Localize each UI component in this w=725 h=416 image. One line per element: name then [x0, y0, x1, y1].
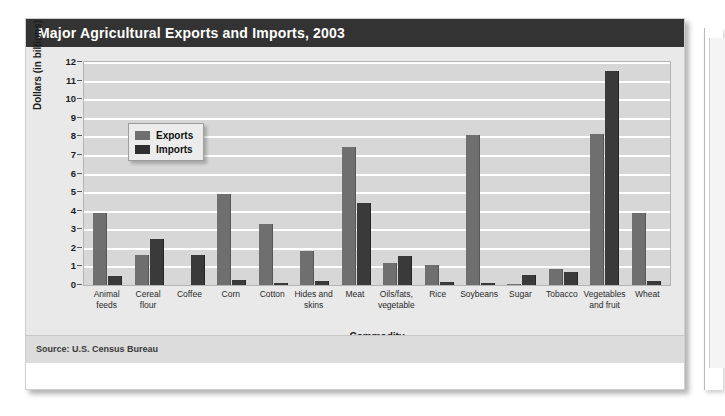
bar-group [625, 62, 666, 285]
x-axis-tick-label: Oils/fats,vegetable [376, 289, 417, 329]
x-axis-tick-label: Corn [210, 289, 251, 329]
bar-imports [647, 281, 661, 285]
y-axis-tick-label: 5 [71, 186, 76, 197]
y-axis-tick-mark [77, 135, 82, 136]
y-axis-tick-mark [77, 228, 82, 229]
figure-title-bar: Major Agricultural Exports and Imports, … [26, 19, 684, 47]
bar-group [211, 62, 252, 285]
y-axis-tick-label: 6 [71, 167, 76, 178]
legend-item-imports: Imports [135, 142, 193, 156]
y-axis-tick-label: 11 [66, 74, 76, 85]
bar-exports [466, 135, 480, 285]
bar-group [377, 62, 418, 285]
y-axis-tick-label: 8 [71, 130, 76, 141]
bar-imports [150, 239, 164, 285]
y-axis-tick-label: 1 [71, 260, 76, 271]
bar-imports [605, 71, 619, 285]
bar-exports [93, 213, 107, 285]
y-axis-tick-mark [77, 61, 82, 62]
y-axis-tick-label: 12 [65, 56, 76, 67]
bar-imports [191, 255, 205, 285]
figure-card: Major Agricultural Exports and Imports, … [25, 18, 685, 390]
y-axis-tick-mark [77, 98, 82, 99]
bar-exports [135, 255, 149, 285]
bar-exports [425, 265, 439, 285]
x-axis-tick-label: Tobacco [541, 289, 582, 329]
y-axis-tick-label: 7 [71, 148, 76, 159]
bar-imports [357, 203, 371, 285]
bar-imports [481, 283, 495, 285]
y-axis-tick-label: 10 [65, 93, 76, 104]
x-axis-tick-label: Hides andskins [293, 289, 334, 329]
bar-group [128, 62, 169, 285]
y-axis-tick-mark [77, 117, 82, 118]
y-axis-tick-mark [77, 210, 82, 211]
bar-group [87, 62, 128, 285]
x-axis-tick-label: Cotton [252, 289, 293, 329]
y-axis-tick-mark [77, 191, 82, 192]
bar-exports [217, 194, 231, 285]
x-axis-tick-label: Sugar [500, 289, 541, 329]
bar-exports [590, 134, 604, 285]
y-axis-tick-mark [77, 173, 82, 174]
bar-group [460, 62, 501, 285]
bar-exports [383, 263, 397, 285]
bar-imports [274, 283, 288, 285]
y-axis-tick-mark [77, 265, 82, 266]
bar-imports [398, 256, 412, 285]
y-axis-tick-label: 9 [71, 111, 76, 122]
adjacent-panel-edge [704, 28, 723, 390]
legend-label-exports: Exports [156, 130, 193, 141]
exports-swatch-icon [135, 131, 150, 140]
bar-imports [440, 282, 454, 285]
bar-exports [549, 269, 563, 285]
chart-legend: Exports Imports [128, 123, 204, 161]
bar-exports [259, 224, 273, 285]
bar-exports [507, 284, 521, 285]
y-axis-tick-label: 0 [71, 279, 76, 290]
y-axis-tick-label: 2 [71, 241, 76, 252]
source-bar: Source: U.S. Census Bureau [26, 335, 684, 363]
adjacent-panel-inner [709, 38, 725, 368]
bar-imports [315, 281, 329, 285]
y-axis-tick-label: 3 [71, 223, 76, 234]
y-axis-tick-mark [77, 80, 82, 81]
bar-group [336, 62, 377, 285]
plot-area [83, 61, 671, 286]
x-axis-tick-label: Soybeans [458, 289, 499, 329]
x-axis-tick-label: Animalfeeds [86, 289, 127, 329]
bar-group [584, 62, 625, 285]
bar-group [253, 62, 294, 285]
x-axis-tick-label: Rice [417, 289, 458, 329]
bar-series-container [84, 62, 670, 285]
legend-item-exports: Exports [135, 128, 193, 142]
bar-imports [522, 275, 536, 285]
bar-imports [564, 272, 578, 285]
x-axis-tick-label: Vegetablesand fruit [583, 289, 627, 329]
y-axis-tick-mark [77, 154, 82, 155]
x-axis-tick-label: Coffee [169, 289, 210, 329]
y-axis-tick-mark [77, 247, 82, 248]
plot-wrapper: 0123456789101112 Exports Imports [83, 61, 671, 286]
source-note: Source: U.S. Census Bureau [36, 344, 158, 354]
imports-swatch-icon [135, 145, 150, 154]
bar-group [543, 62, 584, 285]
bar-exports [300, 251, 314, 285]
y-axis-tick-mark [77, 284, 82, 285]
page-title: Major Agricultural Exports and Imports, … [38, 25, 345, 41]
bar-group [418, 62, 459, 285]
x-axis-tick-label: Wheat [627, 289, 668, 329]
bar-exports [632, 213, 646, 285]
bar-group [170, 62, 211, 285]
x-axis-tick-labels: AnimalfeedsCerealflourCoffeeCornCottonHi… [83, 289, 671, 329]
legend-label-imports: Imports [156, 144, 193, 155]
bar-imports [232, 280, 246, 285]
x-axis-tick-label: Cerealflour [127, 289, 168, 329]
bar-group [501, 62, 542, 285]
y-axis-tick-label: 4 [71, 204, 76, 215]
bar-imports [108, 276, 122, 285]
bar-group [294, 62, 335, 285]
y-axis-title: Dollars (in billions) [32, 0, 43, 135]
bar-exports [342, 147, 356, 285]
chart-body: Dollars (in billions) 0123456789101112 E… [26, 47, 684, 363]
